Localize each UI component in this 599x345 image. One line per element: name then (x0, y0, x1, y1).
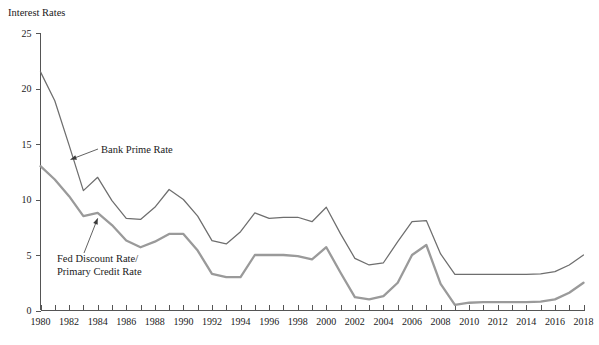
x-tick-label: 1986 (116, 316, 136, 327)
y-axis: 0510152025 (22, 28, 41, 317)
x-axis-minor-ticks (42, 305, 585, 311)
bank-prime-leader-arrow-icon (71, 155, 77, 159)
y-tick-label: 5 (27, 250, 32, 261)
interest-rates-chart: Interest Rates 0510152025 19801982198419… (0, 0, 599, 345)
fed-discount-rate-label-line1: Fed Discount Rate/ (57, 253, 138, 264)
y-tick-label: 0 (27, 305, 32, 316)
bank-prime-rate-label: Bank Prime Rate (101, 144, 173, 155)
series-line-bank-prime-rate (41, 72, 584, 275)
y-tick-label: 10 (22, 194, 32, 205)
y-tick-label: 25 (22, 28, 32, 39)
y-axis-title: Interest Rates (8, 7, 65, 18)
x-tick-label: 2008 (431, 316, 451, 327)
y-tick-label: 20 (22, 83, 32, 94)
y-tick-label: 15 (22, 139, 32, 150)
x-tick-label: 1988 (145, 316, 165, 327)
x-tick-label: 2006 (402, 316, 422, 327)
x-tick-label: 2002 (345, 316, 365, 327)
x-tick-label: 2010 (459, 316, 479, 327)
x-tick-label: 1982 (59, 316, 79, 327)
x-axis: 1980198219841986198819901992199419961998… (31, 305, 594, 327)
x-tick-label: 2004 (373, 316, 393, 327)
x-tick-label: 1980 (31, 316, 51, 327)
chart-canvas: Interest Rates 0510152025 19801982198419… (0, 0, 599, 345)
series-line-fed-discount-rate (41, 166, 584, 305)
x-tick-label: 1994 (231, 316, 251, 327)
x-tick-label: 1992 (202, 316, 222, 327)
y-axis-tick-labels: 0510152025 (22, 28, 32, 317)
fed-discount-rate-annotation: Fed Discount Rate/ Primary Credit Rate (57, 218, 142, 277)
x-tick-label: 2012 (488, 316, 508, 327)
x-tick-label: 1984 (88, 316, 108, 327)
fed-discount-leader-arrow-icon (93, 218, 97, 224)
bank-prime-rate-annotation: Bank Prime Rate (71, 144, 174, 160)
x-tick-label: 2018 (574, 316, 594, 327)
x-tick-label: 2000 (316, 316, 336, 327)
x-tick-label: 2016 (545, 316, 565, 327)
x-tick-label: 1996 (259, 316, 279, 327)
x-tick-label: 2014 (516, 316, 536, 327)
x-tick-label: 1998 (288, 316, 308, 327)
x-axis-tick-labels: 1980198219841986198819901992199419961998… (31, 316, 594, 327)
fed-discount-rate-label-line2: Primary Credit Rate (57, 266, 142, 277)
y-axis-ticks (36, 34, 41, 312)
x-tick-label: 1990 (173, 316, 193, 327)
